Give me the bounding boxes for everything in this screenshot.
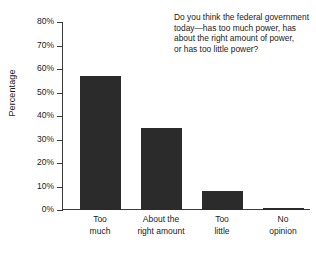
x-axis-label-line1: Too (93, 214, 107, 224)
y-tick-label: 40% (37, 110, 54, 120)
y-tick-label: 80% (37, 16, 54, 26)
x-axis-label-line2: much (90, 226, 111, 236)
y-tick-label: 0% (42, 204, 54, 214)
bar (80, 76, 121, 210)
y-tick-label: 70% (37, 40, 54, 50)
question-line-1: Do you think the federal government (174, 12, 316, 23)
x-axis-label-line1: Too (215, 214, 229, 224)
x-axis-label: No opinion (249, 214, 316, 237)
y-tick-mark (57, 210, 62, 211)
bar-group: Too much (72, 22, 128, 210)
x-axis-label: About the right amount (127, 214, 195, 237)
y-tick-label: 50% (37, 87, 54, 97)
y-tick-label: 20% (37, 157, 54, 167)
survey-question-annotation: Do you think the federal government toda… (174, 12, 316, 54)
y-tick-label: 10% (37, 181, 54, 191)
bar (141, 128, 182, 210)
y-tick-label: 60% (37, 63, 54, 73)
bar (263, 208, 304, 210)
bar (202, 191, 243, 210)
bar-chart: Percentage 80% 70% 60% 50% 40% 30% (0, 0, 316, 257)
x-axis-label-line2: little (214, 226, 229, 236)
x-axis-label: Too little (188, 214, 256, 237)
x-axis-label: Too much (66, 214, 134, 237)
x-axis-label-line2: right amount (137, 226, 184, 236)
x-axis-label-line2: opinion (269, 226, 296, 236)
x-axis-label-line1: About the (143, 214, 179, 224)
y-axis-title: Percentage (7, 53, 17, 133)
question-line-3: about the right amount of power, (174, 33, 316, 44)
question-line-2: today—has too much power, has (174, 23, 316, 34)
y-tick-label: 30% (37, 134, 54, 144)
x-axis-label-line1: No (278, 214, 289, 224)
question-line-4: or has too little power? (174, 44, 316, 55)
